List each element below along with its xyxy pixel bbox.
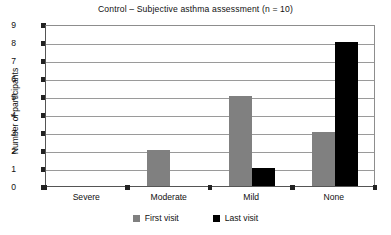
legend-item[interactable]: First visit	[133, 213, 179, 223]
plot-area	[45, 25, 375, 187]
y-tick-label: 1	[0, 165, 16, 173]
gridline	[46, 80, 374, 81]
y-tick-label: 2	[0, 147, 16, 155]
bar	[229, 96, 252, 186]
x-tick-label: Severe	[45, 192, 128, 202]
x-tick-mark	[43, 185, 48, 190]
x-tick-mark	[290, 185, 295, 190]
y-tick-label: 0	[0, 183, 16, 191]
chart-title: Control – Subjective asthma assessment (…	[0, 4, 391, 14]
gridline	[46, 44, 374, 45]
y-tick-label: 4	[0, 111, 16, 119]
x-tick-label: None	[293, 192, 376, 202]
y-tick-label: 9	[0, 21, 16, 29]
x-tick-mark	[125, 185, 130, 190]
gridline	[46, 98, 374, 99]
y-tick-label: 3	[0, 129, 16, 137]
y-tick-label: 8	[0, 39, 16, 47]
chart-legend: First visitLast visit	[0, 213, 391, 223]
y-tick-label: 6	[0, 75, 16, 83]
gridline	[46, 62, 374, 63]
legend-swatch-icon	[213, 215, 220, 222]
bar-chart: Control – Subjective asthma assessment (…	[0, 0, 391, 235]
bar	[335, 42, 358, 186]
gridline	[46, 116, 374, 117]
x-tick-label: Mild	[210, 192, 293, 202]
legend-label: First visit	[145, 213, 179, 223]
legend-label: Last visit	[225, 213, 258, 223]
legend-item[interactable]: Last visit	[213, 213, 258, 223]
bar	[312, 132, 335, 186]
bar	[252, 168, 275, 186]
x-tick-mark	[373, 185, 378, 190]
bar	[147, 150, 170, 186]
x-tick-label: Moderate	[128, 192, 211, 202]
y-tick-label: 7	[0, 57, 16, 65]
y-tick-label: 5	[0, 93, 16, 101]
legend-swatch-icon	[133, 215, 140, 222]
x-tick-mark	[208, 185, 213, 190]
